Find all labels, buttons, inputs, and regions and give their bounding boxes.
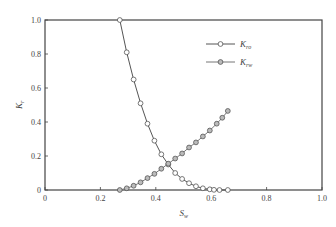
- data-point-marker: [138, 101, 143, 106]
- data-point-marker: [124, 50, 129, 55]
- data-point-marker: [180, 177, 185, 182]
- x-tick-label: 0.2: [95, 194, 105, 203]
- data-point-marker: [214, 121, 219, 126]
- axes: 00.20.40.60.81.000.20.40.60.81.0SwKr: [14, 16, 327, 219]
- data-point-marker: [220, 115, 225, 120]
- x-tick-label: 0.4: [151, 194, 161, 203]
- legend-label: Krw: [239, 57, 252, 68]
- x-tick-label: 1.0: [317, 194, 327, 203]
- data-point-marker: [117, 18, 122, 23]
- data-point-marker: [159, 166, 164, 171]
- series-line-k-rw: [120, 111, 228, 190]
- data-point-marker: [145, 121, 150, 126]
- data-point-marker: [173, 156, 178, 161]
- x-tick-label: 0: [43, 194, 47, 203]
- data-point-marker: [212, 187, 217, 192]
- data-point-marker: [159, 152, 164, 157]
- plot-frame: [45, 20, 322, 190]
- y-tick-label: 1.0: [31, 16, 41, 25]
- data-point-marker: [117, 188, 122, 193]
- data-point-marker: [200, 186, 205, 191]
- data-point-marker: [225, 109, 230, 114]
- legend-marker-icon: [218, 60, 223, 65]
- data-point-marker: [180, 151, 185, 156]
- data-point-marker: [225, 188, 230, 193]
- data-point-marker: [187, 181, 192, 186]
- x-axis-label: Sw: [180, 208, 189, 219]
- series-line-k-ro: [120, 20, 228, 190]
- y-tick-label: 0.4: [31, 118, 41, 127]
- data-point-marker: [131, 183, 136, 188]
- data-point-marker: [152, 171, 157, 176]
- x-tick-label: 0.8: [262, 194, 272, 203]
- y-tick-label: 0.6: [31, 84, 41, 93]
- data-point-marker: [194, 140, 199, 145]
- x-tick-label: 0.6: [206, 194, 216, 203]
- data-point-marker: [200, 134, 205, 139]
- data-point-marker: [152, 138, 157, 143]
- data-point-marker: [131, 77, 136, 82]
- data-point-marker: [166, 161, 171, 166]
- data-point-marker: [145, 176, 150, 181]
- data-point-marker: [187, 145, 192, 150]
- legend-marker-icon: [218, 42, 223, 47]
- data-point-marker: [207, 128, 212, 133]
- data-point-marker: [173, 171, 178, 176]
- y-tick-label: 0: [37, 186, 41, 195]
- data-point-marker: [138, 180, 143, 185]
- legend: KroKrw: [206, 39, 252, 68]
- legend-label: Kro: [239, 39, 251, 50]
- data-point-marker: [217, 188, 222, 193]
- relative-permeability-chart: 00.20.40.60.81.000.20.40.60.81.0SwKr Kro…: [0, 0, 336, 227]
- y-axis-label: Kr: [14, 100, 25, 110]
- y-tick-label: 0.8: [31, 50, 41, 59]
- data-point-marker: [194, 184, 199, 189]
- y-tick-label: 0.2: [31, 152, 41, 161]
- data-point-marker: [124, 186, 129, 191]
